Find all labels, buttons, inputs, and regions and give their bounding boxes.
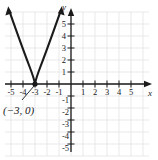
y-tick-label: -1 bbox=[62, 95, 69, 105]
x-tick-label: -5 bbox=[7, 87, 14, 97]
y-tick-label: 3 bbox=[62, 43, 66, 53]
x-tick-label: 3 bbox=[105, 87, 109, 97]
coordinate-plane: -5 -4 -3 -2 -1 1 2 3 4 5 5 4 3 2 1 -1 -2… bbox=[0, 0, 158, 160]
y-tick-label: 5 bbox=[62, 19, 66, 29]
x-tick-label: -3 bbox=[31, 87, 38, 97]
x-tick-label: 2 bbox=[93, 87, 97, 97]
y-tick-label: -3 bbox=[62, 119, 69, 129]
graph-figure: -5 -4 -3 -2 -1 1 2 3 4 5 5 4 3 2 1 -1 -2… bbox=[0, 0, 158, 160]
y-tick-label: 1 bbox=[62, 67, 66, 77]
x-tick-label: 1 bbox=[81, 87, 85, 97]
x-tick-label: 5 bbox=[129, 87, 133, 97]
vertex-point-marker bbox=[32, 81, 37, 86]
y-tick-label: 2 bbox=[62, 55, 66, 65]
y-tick-label: -2 bbox=[62, 107, 69, 117]
y-tick-label: -4 bbox=[62, 131, 70, 141]
vertex-annotation-label: (−3, 0) bbox=[3, 104, 35, 117]
x-tick-label: -2 bbox=[43, 87, 50, 97]
y-tick-label: -5 bbox=[62, 143, 69, 153]
x-axis-label: x bbox=[147, 88, 152, 98]
